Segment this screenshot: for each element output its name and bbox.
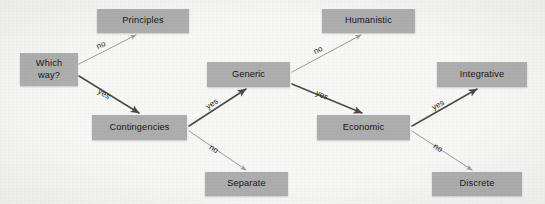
- node-label-economic: Economic: [343, 122, 385, 134]
- edge-which-way-to-principles: [79, 35, 136, 64]
- node-label-principles: Principles: [122, 15, 163, 27]
- node-contingencies[interactable]: Contingencies: [92, 115, 187, 140]
- node-label-separate: Separate: [227, 178, 266, 190]
- node-integrative[interactable]: Integrative: [437, 62, 527, 87]
- edge-contingencies-to-generic: [189, 89, 246, 126]
- node-which-way[interactable]: Which way?: [20, 53, 78, 86]
- edge-economic-to-discrete: [412, 131, 472, 170]
- node-separate[interactable]: Separate: [205, 172, 288, 196]
- node-economic[interactable]: Economic: [317, 115, 410, 140]
- node-label-generic: Generic: [232, 69, 265, 81]
- node-generic[interactable]: Generic: [207, 62, 290, 87]
- node-label-integrative: Integrative: [460, 69, 505, 81]
- node-label-contingencies: Contingencies: [109, 122, 169, 134]
- node-principles[interactable]: Principles: [97, 9, 189, 33]
- decision-tree-diagram: Which way?PrinciplesContingenciesSeparat…: [0, 0, 545, 204]
- node-label-humanistic: Humanistic: [345, 15, 392, 27]
- node-discrete[interactable]: Discrete: [432, 172, 522, 196]
- node-humanistic[interactable]: Humanistic: [322, 9, 415, 33]
- node-label-discrete: Discrete: [460, 178, 495, 190]
- edge-lines: [79, 35, 477, 170]
- edge-economic-to-integrative: [412, 89, 477, 126]
- edge-generic-to-humanistic: [292, 35, 361, 72]
- node-label-which-way: Which way?: [36, 58, 62, 81]
